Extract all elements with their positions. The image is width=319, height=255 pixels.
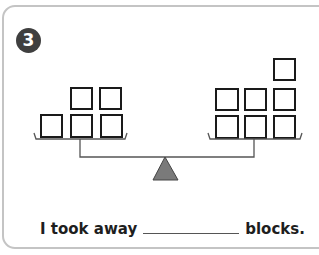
block	[274, 89, 295, 110]
left-pan-blocks	[41, 88, 122, 137]
block	[41, 115, 62, 137]
right-pan-blocks	[216, 59, 295, 138]
sentence-prefix: I took away	[40, 220, 137, 238]
block	[71, 88, 92, 109]
block	[216, 89, 238, 110]
block	[274, 59, 295, 80]
block	[216, 116, 238, 138]
block	[274, 116, 295, 138]
block	[71, 115, 92, 137]
sentence-suffix: blocks.	[245, 220, 305, 238]
answer-blank[interactable]	[143, 232, 239, 234]
block	[101, 115, 122, 137]
answer-sentence: I took away blocks.	[40, 216, 305, 238]
fulcrum-triangle	[153, 157, 178, 180]
block	[100, 88, 121, 109]
block	[245, 89, 266, 110]
block	[245, 116, 266, 138]
